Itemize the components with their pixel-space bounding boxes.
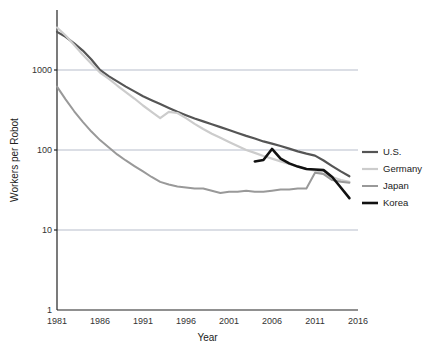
x-tick-label-2011: 2011 [305, 316, 324, 326]
x-tick-label-2016: 2016 [348, 316, 368, 326]
legend-label-us[interactable]: U.S. [383, 146, 401, 157]
x-tick-label-1996: 1996 [176, 316, 196, 326]
x-tick-label-2001: 2001 [219, 316, 239, 326]
legend-label-germany[interactable]: Germany [383, 163, 422, 174]
y-axis-tick-labels: 1101001000 [32, 65, 57, 315]
chart-container: 1101001000 19811986199119962001200620112… [0, 0, 436, 358]
y-tick-label-100: 100 [37, 145, 52, 155]
series-line-japan [57, 87, 349, 193]
x-tick-label-1991: 1991 [133, 316, 153, 326]
axes [57, 10, 358, 310]
series-line-germany [57, 27, 349, 181]
y-tick-label-10: 10 [42, 225, 52, 235]
x-axis-title: Year [197, 332, 218, 343]
legend-label-korea[interactable]: Korea [383, 197, 409, 208]
series-line-us [57, 32, 349, 176]
x-tick-label-1981: 1981 [47, 316, 67, 326]
data-series-group [57, 27, 349, 198]
chart-legend: U.S.GermanyJapanKorea [362, 146, 422, 208]
gridlines [57, 70, 358, 230]
x-axis-tick-labels: 19811986199119962001200620112016 [47, 316, 368, 326]
y-axis-title: Workers per Robot [9, 118, 20, 202]
x-tick-label-2006: 2006 [262, 316, 282, 326]
x-tick-label-1986: 1986 [90, 316, 110, 326]
legend-label-japan[interactable]: Japan [383, 180, 409, 191]
y-tick-label-1: 1 [47, 305, 52, 315]
workers-per-robot-line-chart: 1101001000 19811986199119962001200620112… [0, 0, 436, 358]
y-tick-label-1000: 1000 [32, 65, 52, 75]
